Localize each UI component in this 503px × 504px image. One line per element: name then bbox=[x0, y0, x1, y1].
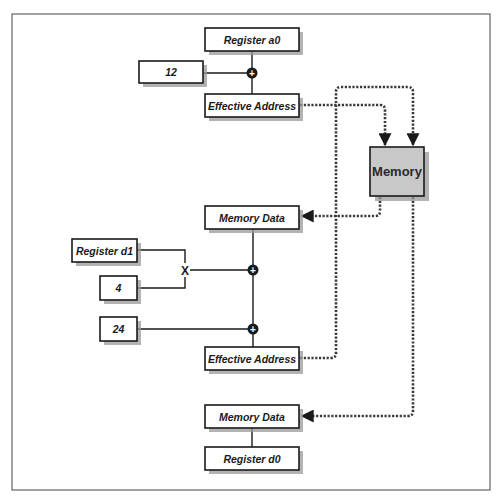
displacement-12-label: 12 bbox=[165, 66, 177, 78]
register-a0-label: Register a0 bbox=[224, 34, 281, 46]
scale-4-label: 4 bbox=[115, 282, 122, 294]
memory-data-1-box: Memory Data bbox=[205, 206, 303, 233]
register-d0-box: Register d0 bbox=[205, 447, 303, 474]
effective-address-2-label: Effective Address bbox=[208, 353, 296, 365]
effective-address-2-box: Effective Address bbox=[205, 347, 303, 374]
plus-icon: + bbox=[249, 68, 255, 79]
register-d0-label: Register d0 bbox=[223, 453, 280, 465]
plus-icon: + bbox=[250, 265, 256, 276]
multiply-operator: X bbox=[181, 264, 189, 278]
memory-data-2-box: Memory Data bbox=[205, 405, 303, 432]
displacement-24-label: 24 bbox=[112, 323, 125, 335]
effective-address-1-label: Effective Address bbox=[208, 100, 296, 112]
effective-address-1-box: Effective Address bbox=[205, 94, 303, 121]
dashed-connectors bbox=[300, 87, 413, 416]
displacement-24-box: 24 bbox=[100, 317, 141, 345]
displacement-12-box: 12 bbox=[139, 61, 207, 87]
scale-4-box: 4 bbox=[100, 276, 141, 304]
plus-icon: + bbox=[250, 324, 256, 335]
add-operator-3: + bbox=[248, 324, 259, 335]
multiply-icon: X bbox=[181, 264, 189, 278]
add-operator-1: + bbox=[247, 68, 258, 79]
memory-label: Memory bbox=[372, 164, 423, 179]
diagram-canvas: Register a0 12 Effective Address Memory … bbox=[0, 0, 503, 504]
memory-data-2-label: Memory Data bbox=[219, 411, 285, 423]
add-operator-2: + bbox=[248, 265, 259, 276]
memory-box: Memory bbox=[370, 147, 429, 201]
register-d1-box: Register d1 bbox=[72, 239, 141, 266]
memory-data-1-label: Memory Data bbox=[219, 212, 285, 224]
register-d1-label: Register d1 bbox=[76, 245, 133, 257]
register-a0-box: Register a0 bbox=[205, 28, 303, 55]
